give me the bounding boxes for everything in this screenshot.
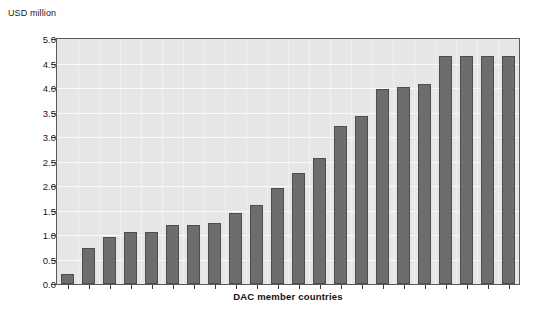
bar — [229, 213, 242, 284]
bar — [376, 89, 389, 284]
x-tick-mark — [467, 285, 468, 289]
bar — [82, 248, 95, 284]
y-tick-label: 3.0 — [10, 132, 56, 143]
x-tick-mark — [194, 285, 195, 289]
x-tick-mark — [152, 285, 153, 289]
bar-chart: USD million 5.04.54.03.53.02.52.01.51.00… — [0, 0, 537, 315]
x-tick-mark — [257, 285, 258, 289]
bar — [208, 223, 221, 284]
x-tick-mark — [131, 285, 132, 289]
bar — [481, 56, 494, 284]
bar — [334, 126, 347, 284]
bar — [166, 225, 179, 284]
bar — [271, 188, 284, 284]
x-tick-mark — [488, 285, 489, 289]
x-tick-mark — [68, 285, 69, 289]
x-tick-mark — [320, 285, 321, 289]
x-tick-mark — [110, 285, 111, 289]
bar — [397, 87, 410, 284]
bars-group — [57, 39, 519, 284]
x-tick-mark — [404, 285, 405, 289]
bar — [418, 84, 431, 284]
x-tick-mark — [362, 285, 363, 289]
bar — [250, 205, 263, 284]
y-tick-label: 4.0 — [10, 83, 56, 94]
bar — [460, 56, 473, 284]
x-tick-mark — [383, 285, 384, 289]
x-tick-mark — [173, 285, 174, 289]
x-tick-mark — [215, 285, 216, 289]
x-tick-mark — [425, 285, 426, 289]
x-tick-mark — [446, 285, 447, 289]
y-tick-label: 2.5 — [10, 156, 56, 167]
bar — [502, 56, 515, 284]
bar — [145, 232, 158, 284]
bar — [292, 173, 305, 284]
y-tick-label: 5.0 — [10, 34, 56, 45]
y-tick-label: 0.5 — [10, 254, 56, 265]
y-tick-label: 0.0 — [10, 279, 56, 290]
plot-area — [56, 38, 520, 285]
bar — [355, 116, 368, 284]
y-axis: 5.04.54.03.53.02.52.01.51.00.50.0 — [0, 0, 56, 315]
x-tick-mark — [299, 285, 300, 289]
y-tick-label: 3.5 — [10, 107, 56, 118]
bar — [439, 56, 452, 284]
x-tick-mark — [89, 285, 90, 289]
y-tick-label: 2.0 — [10, 181, 56, 192]
y-tick-label: 1.0 — [10, 230, 56, 241]
bar — [187, 225, 200, 284]
y-tick-label: 1.5 — [10, 205, 56, 216]
x-tick-mark — [509, 285, 510, 289]
bar — [313, 158, 326, 284]
x-tick-mark — [278, 285, 279, 289]
bar — [61, 274, 74, 284]
x-tick-mark — [341, 285, 342, 289]
x-axis-title: DAC member countries — [56, 291, 520, 302]
bar — [103, 237, 116, 284]
y-tick-label: 4.5 — [10, 58, 56, 69]
x-tick-mark — [236, 285, 237, 289]
bar — [124, 232, 137, 284]
